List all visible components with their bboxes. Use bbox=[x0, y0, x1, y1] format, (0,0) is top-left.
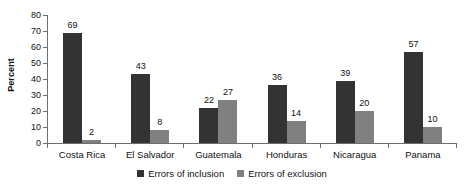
x-axis-category-label: Honduras bbox=[266, 150, 307, 160]
y-axis-tick-label: 10 bbox=[31, 123, 41, 132]
bar-exclusion[interactable] bbox=[150, 130, 169, 143]
y-axis-tick bbox=[43, 79, 47, 80]
y-axis-tick-label: 70 bbox=[31, 27, 41, 36]
x-axis-tick bbox=[388, 143, 389, 148]
bar-group: 3614 bbox=[253, 15, 321, 143]
legend-item[interactable]: Errors of exclusion bbox=[237, 169, 327, 179]
x-axis-category-label: Costa Rica bbox=[59, 150, 105, 160]
bar-group: 5710 bbox=[389, 15, 457, 143]
y-axis-tick-label: 40 bbox=[31, 75, 41, 84]
bar-value-label: 57 bbox=[400, 40, 427, 49]
bar-value-label: 27 bbox=[214, 88, 241, 97]
bar-group: 438 bbox=[116, 15, 184, 143]
y-axis-tick-label: 50 bbox=[31, 59, 41, 68]
bar-group: 2227 bbox=[184, 15, 252, 143]
y-axis-tick bbox=[43, 31, 47, 32]
bar-value-label: 69 bbox=[59, 21, 86, 30]
y-axis-title-text: Percent bbox=[6, 58, 16, 92]
y-axis-tick bbox=[43, 63, 47, 64]
y-axis-tick bbox=[43, 95, 47, 96]
legend-label: Errors of exclusion bbox=[248, 169, 327, 179]
x-axis-category-label: El Salvador bbox=[126, 150, 175, 160]
bar-inclusion[interactable] bbox=[63, 33, 82, 143]
bar-value-label: 36 bbox=[264, 73, 291, 82]
y-axis-tick-labels: 80706050403020100 bbox=[22, 9, 44, 149]
bar-value-label: 39 bbox=[332, 69, 359, 78]
y-axis-tick bbox=[43, 47, 47, 48]
y-axis-tick bbox=[43, 15, 47, 16]
bar-inclusion[interactable] bbox=[131, 74, 150, 143]
bar-chart: Percent 80706050403020100 69243822273614… bbox=[0, 0, 464, 189]
legend-swatch-icon bbox=[237, 170, 244, 177]
x-axis-tick bbox=[252, 143, 253, 148]
x-axis-tick bbox=[47, 143, 48, 148]
bar-inclusion[interactable] bbox=[404, 52, 423, 143]
x-axis-category-label: Panama bbox=[405, 150, 440, 160]
legend-label: Errors of inclusion bbox=[148, 169, 224, 179]
y-axis-title: Percent bbox=[0, 0, 22, 150]
y-axis-tick-label: 60 bbox=[31, 43, 41, 52]
bar-group: 3920 bbox=[321, 15, 389, 143]
y-axis-tick bbox=[43, 111, 47, 112]
y-axis-tick-label: 0 bbox=[36, 139, 41, 148]
y-axis-tick-label: 80 bbox=[31, 11, 41, 20]
bar-value-label: 43 bbox=[127, 62, 154, 71]
bar-exclusion[interactable] bbox=[355, 111, 374, 143]
bar-inclusion[interactable] bbox=[336, 81, 355, 143]
bar-value-label: 8 bbox=[146, 118, 173, 127]
x-axis-tick bbox=[456, 143, 457, 148]
y-axis-tick-label: 20 bbox=[31, 107, 41, 116]
bar-value-label: 20 bbox=[351, 99, 378, 108]
legend-swatch-icon bbox=[137, 170, 144, 177]
bar-inclusion[interactable] bbox=[199, 108, 218, 143]
bar-exclusion[interactable] bbox=[218, 100, 237, 143]
bar-group: 692 bbox=[48, 15, 116, 143]
bar-exclusion[interactable] bbox=[423, 127, 442, 143]
bar-exclusion[interactable] bbox=[287, 121, 306, 143]
x-axis-category-label: Nicaragua bbox=[333, 150, 376, 160]
x-axis-category-labels: Costa RicaEl SalvadorGuatemalaHondurasNi… bbox=[48, 150, 458, 164]
bars-container: 6924382227361439205710 bbox=[48, 15, 457, 143]
x-axis-tick bbox=[115, 143, 116, 148]
legend-item[interactable]: Errors of inclusion bbox=[137, 169, 224, 179]
plot-area: 80706050403020100 6924382227361439205710 bbox=[22, 9, 458, 149]
x-axis-tick bbox=[320, 143, 321, 148]
y-axis-tick bbox=[43, 127, 47, 128]
bar-value-label: 2 bbox=[78, 128, 105, 137]
y-axis-tick-label: 30 bbox=[31, 91, 41, 100]
bar-exclusion[interactable] bbox=[82, 140, 101, 143]
chart-legend: Errors of inclusionErrors of exclusion bbox=[0, 169, 464, 179]
bar-value-label: 10 bbox=[419, 115, 446, 124]
bar-value-label: 14 bbox=[283, 109, 310, 118]
x-axis-category-label: Guatemala bbox=[195, 150, 241, 160]
x-axis-tick bbox=[183, 143, 184, 148]
